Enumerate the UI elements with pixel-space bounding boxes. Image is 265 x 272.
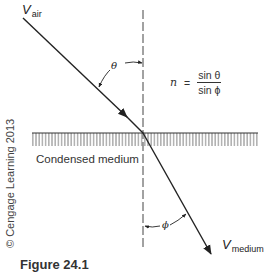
copyright-credit: © Cengage Learning 2013 bbox=[4, 119, 16, 248]
theta-angle-arc bbox=[99, 62, 142, 87]
formula-n: n bbox=[170, 76, 177, 89]
formula-numerator: sin θ bbox=[197, 69, 221, 81]
formula-fraction: sin θ sin ϕ bbox=[197, 69, 221, 96]
theta-label: θ bbox=[110, 60, 118, 71]
fraction-bar bbox=[197, 82, 221, 83]
condensed-medium-label: Condensed medium bbox=[36, 153, 139, 165]
formula-denominator: sin ϕ bbox=[197, 84, 221, 96]
v-medium-label: Vmedium bbox=[222, 237, 264, 252]
v-air-subscript: air bbox=[32, 9, 42, 19]
figure-caption: Figure 24.1 bbox=[20, 257, 89, 272]
v-medium-subscript: medium bbox=[232, 244, 264, 254]
refracted-ray bbox=[143, 133, 211, 254]
v-air-label: Vair bbox=[22, 2, 42, 17]
formula-equals: = bbox=[184, 77, 190, 89]
interface-surface bbox=[32, 133, 258, 146]
phi-label: ϕ bbox=[161, 219, 170, 230]
refractive-index-formula: n = sin θ sin ϕ bbox=[170, 69, 221, 96]
